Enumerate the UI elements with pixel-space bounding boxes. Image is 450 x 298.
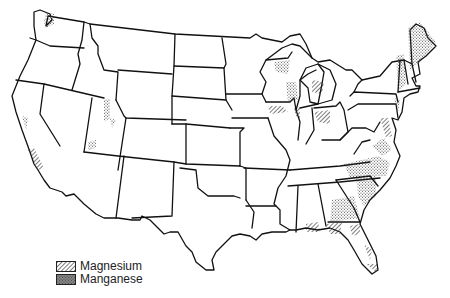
legend-label: Magnesium <box>80 260 142 272</box>
us-map <box>0 0 450 298</box>
state-boundaries <box>12 10 436 274</box>
map-legend: Magnesium Manganese <box>56 260 143 286</box>
magnesium-deposits <box>28 80 392 272</box>
stipple-swatch-icon <box>56 274 76 285</box>
manganese-deposits <box>22 12 436 222</box>
hatch-swatch-icon <box>56 261 76 272</box>
legend-item-magnesium: Magnesium <box>56 260 143 272</box>
legend-label: Manganese <box>80 273 143 285</box>
legend-item-manganese: Manganese <box>56 273 143 285</box>
